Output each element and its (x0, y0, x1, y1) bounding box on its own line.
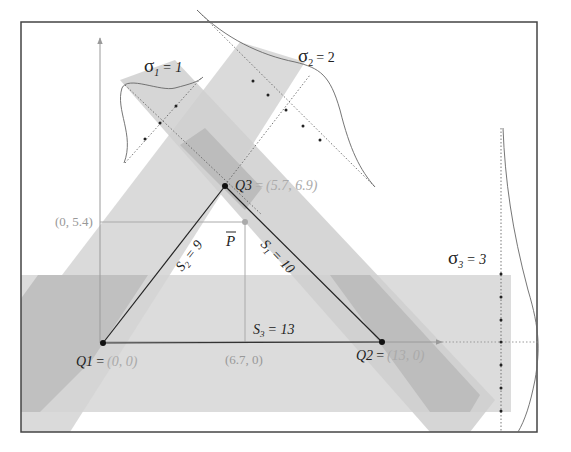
uncertainty-bands (20, 42, 511, 432)
pbar-point (242, 219, 248, 225)
s3-label: S3= 13 (253, 322, 294, 339)
sigma3-tick (500, 387, 503, 390)
sigma2-tick (267, 94, 270, 97)
sigma2-tick (302, 125, 305, 128)
sigma3-tick (500, 273, 503, 276)
sigma3-tick (500, 341, 503, 344)
sigma3-tick (500, 364, 503, 367)
vertex-q3 (222, 183, 228, 189)
sigma1-tick (159, 122, 162, 125)
sigma1-tick (144, 138, 147, 141)
pbar-label: P (225, 233, 235, 249)
q2-label: Q2=(13, 0) (356, 348, 425, 364)
sigma2-label: σ2= 2 (298, 45, 335, 68)
sigma2-tick (252, 80, 255, 83)
sigma3-label: σ3= 3 (448, 247, 486, 270)
diagram-canvas: σ1= 1 σ2= 2 σ3= 3 Q1=(0, 0) Q2=(13, 0) Q… (0, 0, 571, 452)
sigma2-tick (285, 109, 288, 112)
vertex-q1 (100, 340, 106, 346)
q3-label: Q3=(5.7, 6.9) (235, 178, 318, 194)
sigma2-tick (319, 139, 322, 142)
sigma1-tick (175, 105, 178, 108)
y-projection-label: (0, 5.4) (55, 214, 93, 229)
x-projection-label: (6.7, 0) (225, 352, 263, 367)
vertex-q2 (379, 339, 385, 345)
q1-label: Q1=(0, 0) (76, 354, 138, 370)
sigma3-tick (500, 296, 503, 299)
sigma3-tick (500, 319, 503, 322)
sigma3-tick (500, 410, 503, 413)
sigma1-label: σ1= 1 (144, 55, 182, 78)
